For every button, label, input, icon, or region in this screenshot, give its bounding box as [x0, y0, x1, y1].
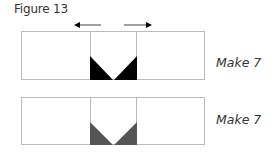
arrow-right-icon: [124, 22, 152, 28]
arrow-left-icon: [74, 22, 101, 28]
unit-1-outline: [22, 32, 205, 80]
unit-1-label: Make 7: [216, 55, 261, 70]
unit-1: [22, 32, 205, 81]
unit-2-outline: [22, 98, 205, 145]
unit-2-label: Make 7: [216, 112, 261, 127]
figure-diagram: [0, 0, 275, 153]
unit-2: [22, 98, 205, 146]
